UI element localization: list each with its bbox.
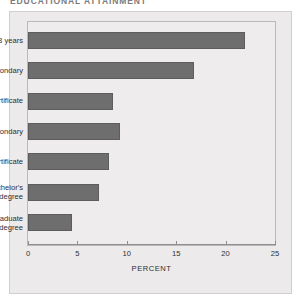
x-tick [176,241,177,245]
bar-row: Some secondary [28,62,275,79]
figure-panel: 0–8 yearsSome secondaryHigh school certi… [9,11,292,294]
x-tick-label: 20 [221,249,229,258]
category-label: University: postgraduate degree [0,214,28,232]
bar [28,123,120,140]
x-tick [28,241,29,245]
bar [28,93,113,110]
bar-row: High school certificate [28,93,275,110]
bar [28,184,99,201]
chart-title-strip: EDUCATIONAL ATTAINMENT [10,0,291,8]
x-tick-label: 25 [271,249,279,258]
bar [28,214,72,231]
bar-rows: 0–8 yearsSome secondaryHigh school certi… [28,22,275,245]
x-axis-title: PERCENT [27,264,276,273]
plot-area: 0–8 yearsSome secondaryHigh school certi… [27,21,276,246]
x-tick-label: 5 [75,249,79,258]
bar [28,32,245,49]
x-tick-label: 15 [172,249,180,258]
bar [28,153,109,170]
bar [28,62,194,79]
bar-row: Postsecondary certificate [28,153,275,170]
bar-row: Some postsecondary [28,123,275,140]
page-title: EDUCATIONAL ATTAINMENT [10,0,291,7]
x-tick [275,241,276,245]
x-tick [127,241,128,245]
bar-row: University: postgraduate degree [28,214,275,231]
category-label: 0–8 years [0,36,28,45]
x-axis-line [28,244,275,245]
bar-row: 0–8 years [28,32,275,49]
category-label: Some postsecondary [0,127,28,136]
x-tick [77,241,78,245]
x-tick-label: 0 [26,249,30,258]
category-label: Postsecondary certificate [0,157,28,166]
bar-row: University: bachelor's degree [28,184,275,201]
category-label: University: bachelor's degree [0,183,28,201]
x-tick [226,241,227,245]
category-label: Some secondary [0,66,28,75]
category-label: High school certificate [0,96,28,105]
chart-page: EDUCATIONAL ATTAINMENT 0–8 yearsSome sec… [0,0,301,304]
x-tick-label: 10 [123,249,131,258]
